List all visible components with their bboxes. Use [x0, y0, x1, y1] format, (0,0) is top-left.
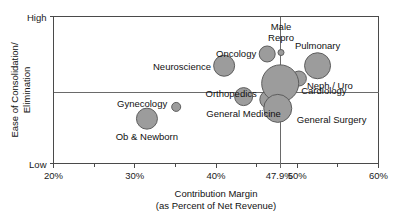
x-axis-tick-label-0: 20%: [44, 170, 64, 181]
bubble-label-ob-newborn: Ob & Newborn: [116, 131, 178, 142]
y-axis-title-line-1: Ease of Consolidation/: [9, 42, 20, 137]
x-axis-title-line-1: Contribution Margin: [175, 188, 258, 199]
x-reference-line-label: 47.9%: [266, 170, 293, 181]
chart-canvas: NeuroscienceOncologyMaleReproPulmonaryNe…: [0, 0, 399, 221]
bubble-label-male-repro: Male: [271, 21, 292, 32]
x-axis-tick-label-2: 40%: [206, 170, 226, 181]
bubble-chart: NeuroscienceOncologyMaleReproPulmonaryNe…: [0, 0, 399, 221]
bubble-label-gynecology: Gynecology: [117, 98, 167, 109]
bubble-label-pulmonary: Pulmonary: [295, 40, 341, 51]
bubble-pulmonary: [305, 53, 331, 79]
x-axis-tick-label-1: 30%: [125, 170, 145, 181]
bubble-label-general-medicine: General Medicine: [206, 108, 280, 119]
bubble-label-general-surgery: General Surgery: [297, 114, 367, 125]
bubble-label-neuroscience: Neuroscience: [153, 61, 211, 72]
y-axis-high-label: High: [27, 12, 47, 23]
y-axis-title-line-2: Elimination: [21, 67, 32, 113]
x-axis-tick-label-4: 60%: [369, 170, 389, 181]
bubble-male-repro: [278, 50, 284, 56]
bubble-label-cardiology: Cardiology: [301, 85, 347, 96]
bubble-gynecology: [172, 102, 181, 111]
bubble-label-orthopedics: Orthopedics: [206, 88, 257, 99]
bubble-oncology: [259, 46, 275, 62]
y-axis-low-label: Low: [29, 159, 47, 170]
bubble-ob-newborn: [136, 108, 157, 129]
bubble-label-male-repro: Repro: [268, 32, 294, 43]
bubble-label-oncology: Oncology: [216, 48, 256, 59]
x-axis-title-line-2: (as Percent of Net Revenue): [156, 200, 276, 211]
